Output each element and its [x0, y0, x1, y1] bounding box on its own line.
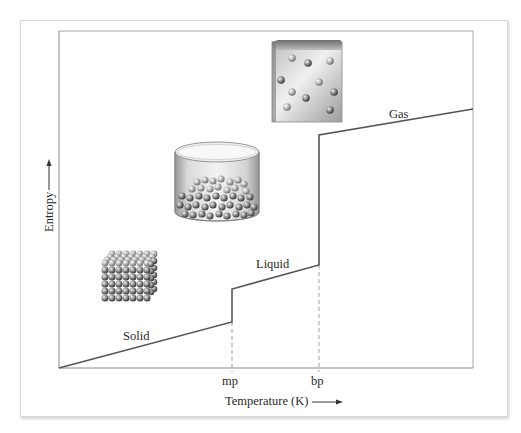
phase-label-solid: Solid	[123, 329, 150, 343]
gas-box-icon	[272, 40, 342, 122]
tick-label-bp: bp	[311, 374, 324, 388]
liquid-beaker-icon	[175, 142, 259, 221]
phase-label-liquid: Liquid	[256, 257, 290, 271]
solid-crystal-icon	[102, 251, 158, 302]
entropy-curve	[59, 109, 473, 368]
entropy-diagram: Solid Liquid Gas mp bp Temperature (K) E…	[0, 0, 521, 433]
tick-label-mp: mp	[222, 374, 238, 388]
x-axis-label: Temperature (K)	[225, 394, 308, 408]
plot-frame	[59, 31, 473, 368]
y-axis-arrow-icon	[47, 159, 52, 190]
x-axis-arrow-icon	[312, 400, 343, 405]
phase-label-gas: Gas	[389, 107, 409, 121]
y-axis-label: Entropy	[42, 191, 56, 232]
